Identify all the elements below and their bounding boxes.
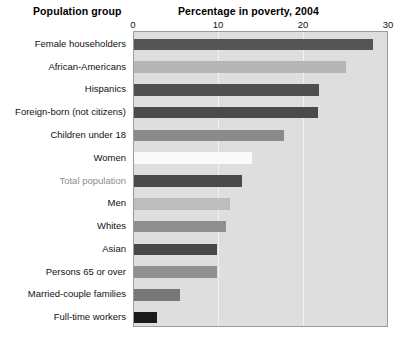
bar-row [134, 312, 387, 324]
bar-rows [134, 32, 387, 326]
category-label: Women [93, 152, 126, 163]
category-label: Total population [59, 175, 126, 186]
bar-row [134, 289, 387, 301]
category-label: Full-time workers [54, 311, 126, 322]
plot-area [133, 31, 388, 327]
bar-row [134, 39, 387, 51]
bar [134, 130, 284, 142]
bar [134, 61, 346, 73]
category-label: Men [108, 197, 126, 208]
bar [134, 266, 217, 278]
bar-row [134, 130, 387, 142]
category-labels: Female householdersAfrican-AmericansHisp… [0, 31, 130, 327]
bar [134, 39, 373, 51]
bar [134, 84, 319, 96]
category-label: Hispanics [85, 83, 126, 94]
category-label: Children under 18 [50, 129, 126, 140]
population-group-header: Population group [33, 5, 122, 17]
bar-row [134, 266, 387, 278]
category-label: African-Americans [48, 61, 126, 72]
bar [134, 107, 318, 119]
bar [134, 152, 252, 164]
bar [134, 198, 230, 210]
category-label: Asian [102, 243, 126, 254]
bar-row [134, 175, 387, 187]
bar [134, 244, 217, 256]
category-label: Foreign-born (not citizens) [15, 106, 126, 117]
x-tick-0: 0 [130, 19, 135, 30]
bar [134, 289, 180, 301]
bar-row [134, 198, 387, 210]
x-axis-tick-labels: 0102030 [133, 19, 388, 31]
category-label: Whites [97, 220, 126, 231]
chart-title: Percentage in poverty, 2004 [178, 5, 319, 17]
bar-row [134, 107, 387, 119]
x-tick-20: 20 [298, 19, 309, 30]
category-label: Female householders [35, 38, 126, 49]
bar-row [134, 61, 387, 73]
bar-row [134, 221, 387, 233]
bar-row [134, 84, 387, 96]
category-label: Married-couple families [28, 288, 126, 299]
bar-row [134, 152, 387, 164]
bar [134, 312, 157, 324]
bar [134, 221, 226, 233]
poverty-bar-chart: Population group Percentage in poverty, … [0, 0, 405, 340]
bar-row [134, 244, 387, 256]
x-tick-30: 30 [383, 19, 394, 30]
x-tick-10: 10 [213, 19, 224, 30]
category-label: Persons 65 or over [46, 266, 126, 277]
bar [134, 175, 242, 187]
